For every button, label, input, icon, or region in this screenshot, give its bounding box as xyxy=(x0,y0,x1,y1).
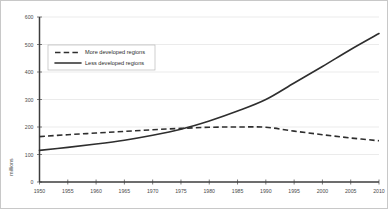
y-tick-label: 600 xyxy=(25,14,34,20)
y-axis-tick-labels: 0100200300400500600 xyxy=(25,14,34,185)
legend-label-more-developed: More developed regions xyxy=(85,49,145,55)
chart-legend: More developed regions Less developed re… xyxy=(48,45,155,70)
x-tick-label: 2005 xyxy=(345,188,357,194)
gridlines xyxy=(40,17,380,155)
x-tick-label: 1955 xyxy=(62,188,74,194)
x-tick-label: 1970 xyxy=(147,188,159,194)
x-tick-label: 2000 xyxy=(317,188,329,194)
series-line-more-developed xyxy=(40,127,380,141)
x-tick-label: 1965 xyxy=(119,188,131,194)
legend-label-less-developed: Less developed regions xyxy=(85,60,144,66)
x-tick-label: 1995 xyxy=(288,188,300,194)
y-axis-title: millions xyxy=(8,158,14,176)
x-tick-label: 1960 xyxy=(90,188,102,194)
x-tick-label: 1950 xyxy=(34,188,46,194)
y-tick-label: 400 xyxy=(25,69,34,75)
x-tick-label: 1975 xyxy=(175,188,187,194)
line-chart: 0100200300400500600 19501955196019651970… xyxy=(0,0,388,209)
y-tick-label: 300 xyxy=(25,97,34,103)
x-tick-label: 1990 xyxy=(260,188,272,194)
y-tick-label: 200 xyxy=(25,124,34,130)
x-tick-label: 2010 xyxy=(373,188,385,194)
y-tick-label: 100 xyxy=(25,152,34,158)
x-tick-label: 1985 xyxy=(232,188,244,194)
y-tick-label: 0 xyxy=(31,179,34,185)
chart-canvas: 0100200300400500600 19501955196019651970… xyxy=(1,1,388,209)
x-tick-label: 1980 xyxy=(203,188,215,194)
x-axis-tick-labels: 1950195519601965197019751980198519901995… xyxy=(34,188,385,194)
y-tick-label: 500 xyxy=(25,42,34,48)
